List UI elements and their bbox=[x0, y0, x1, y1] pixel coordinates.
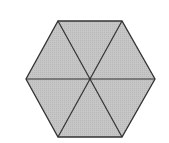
hexagon-diagram bbox=[0, 0, 169, 143]
